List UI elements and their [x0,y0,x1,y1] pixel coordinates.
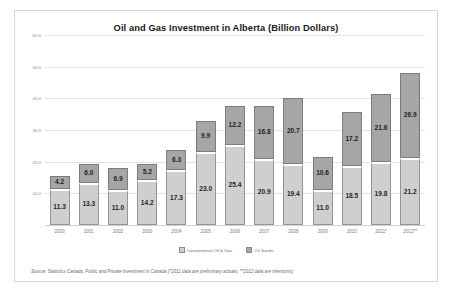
bar-group[interactable]: 6.911.0 [108,35,128,225]
x-axis-tick-label: 2002 [108,229,128,234]
bar-group[interactable]: 26.921.2 [400,35,420,225]
bar-group[interactable]: 12.225.4 [225,35,245,225]
bar-segment-conventional[interactable]: 13.3 [79,183,99,225]
bar-value-label: 5.2 [143,169,152,176]
bar-segment-conventional[interactable]: 14.2 [137,180,157,225]
chart-frame: Oil and Gas Investment in Alberta (Billi… [14,10,438,282]
bar-stack[interactable]: 10.611.0 [313,157,333,225]
x-axis-tick-label: 2008 [283,229,303,234]
bar-value-label: 6.3 [172,157,181,164]
bar-stack[interactable]: 9.923.0 [196,121,216,225]
bar-group[interactable]: 4.211.3 [50,35,70,225]
bar-segment-conventional[interactable]: 19.4 [283,164,303,225]
x-axis-tick-label: 2012** [400,229,420,234]
bar-group[interactable]: 17.218.5 [342,35,362,225]
bar-value-label: 6.0 [84,170,93,177]
bar-segment-oil-sands[interactable]: 20.7 [283,98,303,164]
bar-segment-conventional[interactable]: 20.9 [254,159,274,225]
bar-stack[interactable]: 12.225.4 [225,106,245,225]
bar-segment-oil-sands[interactable]: 10.6 [313,157,333,191]
x-axis-tick-label: 2005 [196,229,216,234]
y-axis-tick-label: 40.0 [32,96,41,101]
x-axis-tick-label: 2003 [137,229,157,234]
bar-stack[interactable]: 26.921.2 [400,73,420,225]
bar-segment-oil-sands[interactable]: 6.9 [108,168,128,190]
legend-swatch-icon [246,247,252,253]
bar-stack[interactable]: 6.911.0 [108,168,128,225]
bar-value-label: 20.9 [258,189,271,196]
bar-group[interactable]: 6.317.3 [166,35,186,225]
bar-segment-conventional[interactable]: 11.0 [313,190,333,225]
bar-segment-oil-sands[interactable]: 5.2 [137,164,157,180]
bar-value-label: 12.2 [229,122,242,129]
bar-value-label: 16.8 [258,129,271,136]
x-axis-tick-label: 2009 [313,229,333,234]
bar-group[interactable]: 20.719.4 [283,35,303,225]
bar-segment-oil-sands[interactable]: 9.9 [196,121,216,152]
bar-value-label: 19.8 [375,191,388,198]
bar-group[interactable]: 5.214.2 [137,35,157,225]
legend-item[interactable]: Conventional Oil & Gas [179,247,233,253]
chart-legend: Conventional Oil & GasOil Sands [15,247,437,253]
x-axis-tick-label: 2007 [254,229,274,234]
y-axis-tick-label: 10.0 [32,191,41,196]
bar-stack[interactable]: 16.820.9 [254,106,274,225]
x-axis-tick-label: 2011* [371,229,391,234]
bar-value-label: 17.3 [170,195,183,202]
bar-segment-conventional[interactable]: 23.0 [196,152,216,225]
y-axis-tick-label: 30.0 [32,128,41,133]
bar-segment-oil-sands[interactable]: 12.2 [225,106,245,145]
bar-segment-oil-sands[interactable]: 4.2 [50,176,70,189]
bar-value-label: 14.2 [141,200,154,207]
bar-segment-oil-sands[interactable]: 17.2 [342,112,362,166]
y-axis-tick-label: 20.0 [32,159,41,164]
y-axis-tick-label: 60.0 [32,33,41,38]
bar-segment-oil-sands[interactable]: 6.0 [79,164,99,183]
bar-value-label: 21.2 [404,189,417,196]
bars-layer: 4.211.36.013.36.911.05.214.26.317.39.923… [45,35,425,225]
bar-stack[interactable]: 6.317.3 [166,150,186,225]
bar-segment-oil-sands[interactable]: 16.8 [254,106,274,159]
bar-group[interactable]: 21.619.8 [371,35,391,225]
bar-value-label: 11.0 [112,205,124,212]
legend-swatch-icon [179,247,185,253]
bar-value-label: 11.3 [53,204,65,211]
bar-segment-conventional[interactable]: 11.3 [50,189,70,225]
bar-value-label: 17.2 [345,136,358,143]
bar-group[interactable]: 10.611.0 [313,35,333,225]
bar-stack[interactable]: 21.619.8 [371,94,391,225]
bar-value-label: 13.3 [82,201,95,208]
bar-segment-conventional[interactable]: 19.8 [371,162,391,225]
legend-label: Conventional Oil & Gas [187,248,233,253]
x-axis-tick-label: 2004 [166,229,186,234]
bar-stack[interactable]: 20.719.4 [283,98,303,225]
y-axis-tick-label: - [40,223,41,228]
bar-segment-oil-sands[interactable]: 26.9 [400,73,420,158]
bar-stack[interactable]: 4.211.3 [50,176,70,225]
bar-segment-conventional[interactable]: 11.0 [108,190,128,225]
chart-title: Oil and Gas Investment in Alberta (Billi… [15,23,437,33]
bar-value-label: 26.9 [404,112,417,119]
bar-value-label: 6.9 [113,176,122,183]
bar-segment-conventional[interactable]: 21.2 [400,158,420,225]
bar-stack[interactable]: 17.218.5 [342,112,362,225]
bar-segment-conventional[interactable]: 18.5 [342,166,362,225]
bar-value-label: 25.4 [229,182,242,189]
bar-group[interactable]: 16.820.9 [254,35,274,225]
bar-segment-oil-sands[interactable]: 6.3 [166,150,186,170]
x-axis-tick-label: 2010 [342,229,362,234]
bar-value-label: 4.2 [55,179,64,186]
bar-value-label: 10.6 [316,170,329,177]
bar-segment-oil-sands[interactable]: 21.6 [371,94,391,162]
bar-segment-conventional[interactable]: 17.3 [166,170,186,225]
bar-stack[interactable]: 5.214.2 [137,164,157,225]
bar-group[interactable]: 9.923.0 [196,35,216,225]
legend-item[interactable]: Oil Sands [246,247,273,253]
bar-segment-conventional[interactable]: 25.4 [225,145,245,225]
bar-value-label: 11.0 [316,205,328,212]
bar-group[interactable]: 6.013.3 [79,35,99,225]
bar-stack[interactable]: 6.013.3 [79,164,99,225]
x-axis-labels: 2000200120022003200420052006200720082009… [45,229,425,234]
x-axis-tick-label: 2001 [79,229,99,234]
x-axis-tick-label: 2000 [50,229,70,234]
